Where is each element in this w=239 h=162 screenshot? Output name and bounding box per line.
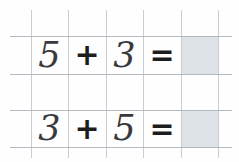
row-2-plus-icon: + — [68, 110, 106, 147]
answer-box-row-1[interactable] — [182, 37, 218, 74]
row-2-equals-icon: = — [143, 110, 181, 147]
row-2-addend-2: 5 — [106, 110, 143, 147]
row-1-addend-2: 3 — [106, 36, 143, 74]
row-1-plus-icon: + — [68, 36, 106, 74]
row-1-equals-icon: = — [143, 36, 181, 74]
row-1-addend-1: 5 — [31, 36, 68, 74]
grid-vertical-line — [218, 10, 219, 158]
row-2-addend-1: 3 — [31, 110, 68, 147]
worksheet: 5 + 3 = 3 + 5 = — [0, 0, 239, 162]
answer-box-row-2[interactable] — [182, 111, 218, 147]
blank-spacer-row — [31, 74, 218, 110]
